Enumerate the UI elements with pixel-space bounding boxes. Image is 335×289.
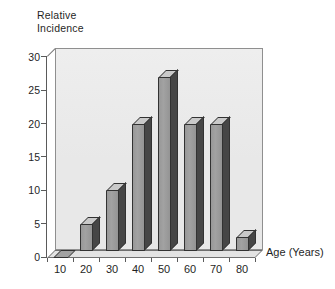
x-tick-mark <box>177 258 178 262</box>
x-tick-label: 10 <box>47 263 73 275</box>
y-tick-label: 10 <box>16 184 40 196</box>
y-tick-label: 20 <box>16 118 40 130</box>
y-tick-mark <box>41 56 47 57</box>
y-tick-mark <box>41 90 47 91</box>
y-tick-mark <box>41 190 47 191</box>
y-tick-label: 30 <box>16 51 40 63</box>
x-tick-label: 70 <box>203 263 229 275</box>
chart-canvas: Relative Incidence 051015202530 10203040… <box>0 0 335 289</box>
bar-age-80 <box>236 237 249 251</box>
x-tick-label: 40 <box>125 263 151 275</box>
x-tick-label: 80 <box>229 263 255 275</box>
y-tick-mark <box>41 156 47 157</box>
bar-age-60 <box>184 124 197 251</box>
x-tick-mark <box>203 258 204 262</box>
bar-age-30 <box>106 190 119 251</box>
x-tick-label: 50 <box>151 263 177 275</box>
x-tick-mark <box>99 258 100 262</box>
x-tick-mark <box>73 258 74 262</box>
x-tick-label: 20 <box>73 263 99 275</box>
bar-age-70 <box>210 124 223 251</box>
x-tick-mark <box>47 258 48 262</box>
y-tick-label: 15 <box>16 151 40 163</box>
x-tick-mark <box>125 258 126 262</box>
y-tick-label: 5 <box>16 218 40 230</box>
x-tick-label: 60 <box>177 263 203 275</box>
bar-age-50 <box>158 77 171 251</box>
y-tick-label: 25 <box>16 84 40 96</box>
y-axis-title: Relative Incidence <box>37 9 84 34</box>
x-tick-mark <box>255 258 256 262</box>
bar-age-20 <box>80 224 93 251</box>
plot-floor <box>47 250 263 258</box>
bar-age-40 <box>132 124 145 251</box>
x-tick-mark <box>229 258 230 262</box>
y-tick-mark <box>41 123 47 124</box>
x-axis-title: Age (Years) <box>266 246 324 258</box>
y-tick-mark <box>41 223 47 224</box>
x-tick-mark <box>151 258 152 262</box>
x-tick-label: 30 <box>99 263 125 275</box>
y-tick-label: 0 <box>16 251 40 263</box>
